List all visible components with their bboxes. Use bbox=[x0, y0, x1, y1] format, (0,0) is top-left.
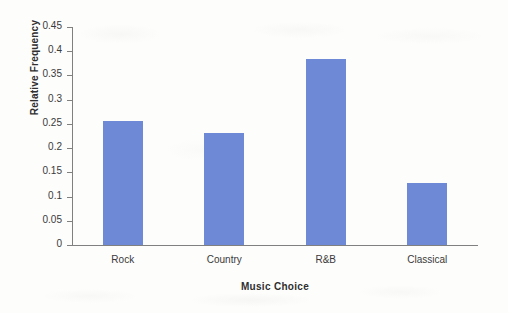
x-axis-category-label: R&B bbox=[275, 254, 377, 265]
y-axis-tick-label: 0.4 bbox=[48, 44, 62, 55]
y-axis-tick-label: 0.45 bbox=[43, 20, 62, 31]
y-axis-title: Relative Frequency bbox=[29, 0, 40, 148]
x-axis-category-label: Classical bbox=[377, 254, 479, 265]
y-axis-tick-label: 0 bbox=[56, 238, 62, 249]
x-axis-category-label: Rock bbox=[72, 254, 174, 265]
x-axis-title: Music Choice bbox=[72, 281, 478, 292]
y-axis-tick-label: 0.1 bbox=[48, 190, 62, 201]
bar-chart: Relative Frequency 00.050.10.150.20.250.… bbox=[0, 0, 508, 313]
x-axis-line bbox=[72, 245, 478, 246]
y-axis-tick-mark bbox=[67, 245, 72, 246]
y-axis-tick-label: 0.2 bbox=[48, 141, 62, 152]
y-axis-tick-label: 0.15 bbox=[43, 165, 62, 176]
y-axis-tick-label: 0.3 bbox=[48, 93, 62, 104]
y-axis-tick-label: 0.35 bbox=[43, 68, 62, 79]
bar bbox=[204, 133, 244, 245]
bar bbox=[407, 183, 447, 245]
bar bbox=[103, 121, 143, 245]
y-axis-tick-label: 0.25 bbox=[43, 117, 62, 128]
y-axis-tick-label: 0.05 bbox=[43, 214, 62, 225]
bar bbox=[306, 59, 346, 246]
plot-area bbox=[72, 27, 478, 245]
x-axis-category-label: Country bbox=[174, 254, 276, 265]
